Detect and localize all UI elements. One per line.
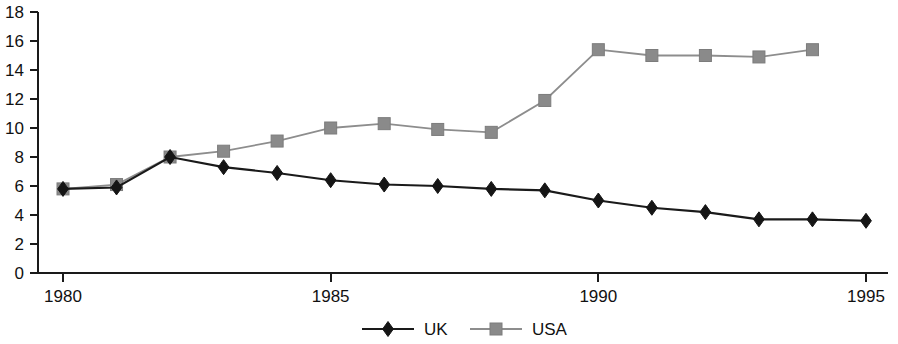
data-point-uk-1985 — [325, 173, 336, 188]
data-point-uk-1984 — [272, 165, 283, 180]
y-tick-label-14: 14 — [5, 61, 24, 80]
y-tick-label-6: 6 — [15, 177, 24, 196]
data-point-usa-1993 — [753, 51, 765, 63]
data-point-usa-1986 — [378, 118, 390, 130]
legend-marker-uk — [383, 322, 394, 337]
data-point-uk-1992 — [700, 205, 711, 220]
data-point-usa-1992 — [699, 50, 711, 62]
series-usa — [57, 44, 818, 195]
y-axis-tick-labels: 024681012141618 — [5, 3, 24, 283]
legend-label-uk: UK — [424, 320, 448, 339]
legend-item-uk[interactable]: UK — [362, 320, 448, 339]
legend-marker-usa — [490, 323, 502, 335]
data-point-usa-1983 — [218, 145, 230, 157]
data-point-uk-1994 — [807, 212, 818, 227]
data-point-usa-1985 — [325, 122, 337, 134]
data-point-uk-1990 — [593, 193, 604, 208]
data-point-usa-1994 — [806, 44, 818, 56]
data-point-uk-1995 — [861, 213, 872, 228]
data-point-usa-1988 — [485, 126, 497, 138]
x-axis-ticks — [63, 273, 866, 282]
data-point-uk-1991 — [646, 200, 657, 215]
chart-legend: UKUSA — [362, 320, 568, 339]
y-tick-label-12: 12 — [5, 90, 24, 109]
series-line-uk — [63, 157, 866, 221]
y-tick-label-16: 16 — [5, 32, 24, 51]
series-uk — [58, 150, 872, 229]
y-tick-label-4: 4 — [15, 206, 24, 225]
data-point-uk-1986 — [379, 177, 390, 192]
x-tick-label-1980: 1980 — [44, 287, 82, 306]
data-point-usa-1991 — [646, 50, 658, 62]
y-tick-label-18: 18 — [5, 3, 24, 22]
line-chart: 024681012141618 1980198519901995 UKUSA — [0, 0, 898, 344]
y-tick-label-0: 0 — [15, 264, 24, 283]
data-point-usa-1984 — [271, 135, 283, 147]
series-line-usa — [63, 50, 812, 189]
data-point-usa-1989 — [539, 94, 551, 106]
data-point-uk-1993 — [754, 212, 765, 227]
legend-item-usa[interactable]: USA — [470, 320, 568, 339]
data-point-uk-1983 — [218, 160, 229, 175]
data-point-usa-1987 — [432, 123, 444, 135]
x-axis-tick-labels: 1980198519901995 — [44, 287, 885, 306]
x-tick-label-1985: 1985 — [312, 287, 350, 306]
x-tick-label-1990: 1990 — [579, 287, 617, 306]
data-point-uk-1989 — [539, 183, 550, 198]
x-tick-label-1995: 1995 — [847, 287, 885, 306]
y-tick-label-10: 10 — [5, 119, 24, 138]
y-tick-label-2: 2 — [15, 235, 24, 254]
legend-label-usa: USA — [532, 320, 568, 339]
y-axis-ticks — [30, 12, 38, 273]
chart-canvas: 024681012141618 1980198519901995 UKUSA — [0, 0, 898, 344]
data-point-usa-1990 — [592, 44, 604, 56]
data-point-uk-1988 — [486, 181, 497, 196]
y-tick-label-8: 8 — [15, 148, 24, 167]
data-point-uk-1987 — [432, 179, 443, 194]
